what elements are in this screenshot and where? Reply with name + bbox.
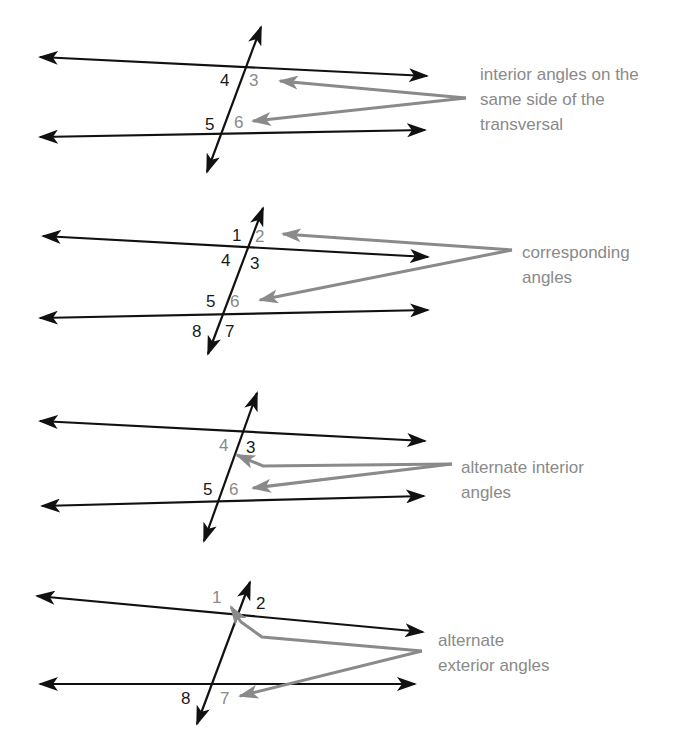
caption-line: alternate [438, 628, 550, 653]
parallel-line-top [40, 421, 425, 441]
angle-label-4: 4 [221, 251, 230, 270]
caption-line: interior angles on the [480, 62, 639, 87]
angle-label-4: 4 [220, 71, 229, 90]
angle-label-5: 5 [205, 115, 214, 134]
diagram-corresponding: 1 2 4 3 5 6 8 7 [40, 208, 512, 354]
angle-label-3: 3 [249, 71, 258, 90]
angle-label-7: 7 [220, 689, 229, 708]
diagram-same-side-interior: 4 3 5 6 [40, 27, 466, 172]
caption-corresponding: corresponding angles [522, 240, 630, 290]
angle-label-6: 6 [234, 113, 243, 132]
angle-label-7: 7 [225, 322, 234, 341]
angle-label-6: 6 [229, 480, 238, 499]
diagram-alternate-interior: 4 3 5 6 [40, 393, 452, 541]
pointer-arrow-lower [240, 651, 422, 696]
transversal-line [207, 27, 261, 172]
angle-label-3: 3 [246, 438, 255, 457]
angle-label-8: 8 [192, 322, 201, 341]
pointer-arrow-lower [253, 98, 466, 121]
pointer-arrow-upper [283, 234, 512, 250]
caption-line: angles [522, 265, 630, 290]
angle-label-2: 2 [256, 594, 265, 613]
pointer-arrow-upper [280, 81, 466, 98]
caption-line: angles [461, 480, 584, 505]
angle-label-3: 3 [250, 254, 259, 273]
pointer-arrow-lower [253, 464, 452, 488]
transversal-line [204, 393, 257, 541]
angle-label-1: 1 [212, 588, 221, 607]
pointer-arrow-upper [237, 455, 452, 466]
pointer-arrow-lower [260, 250, 512, 300]
parallel-line-top [37, 596, 423, 632]
parallel-line-top [40, 57, 427, 76]
angle-label-4: 4 [219, 436, 228, 455]
angle-label-6: 6 [230, 292, 239, 311]
angle-label-2: 2 [255, 227, 264, 246]
diagram-alternate-exterior: 1 2 8 7 [37, 582, 423, 724]
caption-line: same side of the [480, 87, 639, 112]
caption-line: alternate interior [461, 455, 584, 480]
parallel-line-bottom [40, 130, 425, 137]
caption-line: corresponding [522, 240, 630, 265]
caption-alternate-exterior: alternate exterior angles [438, 628, 550, 678]
caption-line: exterior angles [438, 653, 550, 678]
angle-label-1: 1 [232, 226, 241, 245]
angle-label-5: 5 [203, 480, 212, 499]
parallel-line-bottom [40, 310, 428, 318]
caption-same-side-interior: interior angles on the same side of the … [480, 62, 639, 137]
angle-label-5: 5 [206, 292, 215, 311]
caption-line: transversal [480, 112, 639, 137]
angle-label-8: 8 [181, 689, 190, 708]
caption-alternate-interior: alternate interior angles [461, 455, 584, 505]
